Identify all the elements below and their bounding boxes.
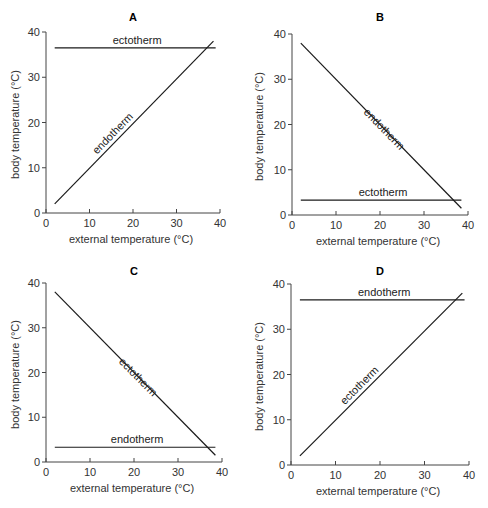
series-line-endotherm xyxy=(55,41,214,204)
y-tick-label: 30 xyxy=(28,71,40,83)
x-axis-label: external temperature (°C) xyxy=(70,482,194,494)
chart-panel-d: D010203040010203040external temperature … xyxy=(244,254,488,508)
chart-svg: B010203040010203040external temperature … xyxy=(244,0,488,254)
y-tick-label: 40 xyxy=(274,28,286,40)
x-tick-label: 10 xyxy=(83,217,95,229)
x-tick-label: 0 xyxy=(43,217,49,229)
x-tick-label: 10 xyxy=(330,219,342,231)
y-axis-label: body temperature (°C) xyxy=(253,72,265,181)
y-tick-label: 0 xyxy=(34,207,40,219)
x-tick-label: 0 xyxy=(43,466,49,478)
y-axis-label: body temperature (°C) xyxy=(9,70,21,179)
y-axis-label: body temperature (°C) xyxy=(9,320,21,429)
series-label-endotherm: endotherm xyxy=(111,433,164,445)
x-tick-label: 30 xyxy=(418,469,430,481)
series-label-endotherm: endotherm xyxy=(90,110,135,156)
y-tick-label: 0 xyxy=(280,209,286,221)
y-tick-label: 30 xyxy=(28,322,40,334)
x-axis-label: external temperature (°C) xyxy=(69,233,193,245)
x-tick-label: 40 xyxy=(216,466,228,478)
x-tick-label: 20 xyxy=(374,469,386,481)
series-line-ectotherm xyxy=(300,293,462,456)
x-tick-label: 10 xyxy=(84,466,96,478)
chart-svg: C010203040010203040external temperature … xyxy=(0,254,244,508)
series-label-endotherm: endotherm xyxy=(362,106,407,152)
panel-title: D xyxy=(376,265,384,277)
y-tick-label: 20 xyxy=(28,367,40,379)
x-tick-label: 30 xyxy=(418,219,430,231)
y-tick-label: 20 xyxy=(274,119,286,131)
x-tick-label: 40 xyxy=(462,219,474,231)
y-tick-label: 0 xyxy=(34,456,40,468)
y-tick-label: 40 xyxy=(273,278,285,290)
panel-title: A xyxy=(129,11,137,23)
y-axis-label: body temperature (°C) xyxy=(253,322,265,431)
panel-title: C xyxy=(130,265,138,277)
chart-svg: D010203040010203040external temperature … xyxy=(244,254,488,508)
x-tick-label: 30 xyxy=(170,217,182,229)
y-tick-label: 30 xyxy=(274,73,286,85)
chart-panel-b: B010203040010203040external temperature … xyxy=(244,0,488,254)
x-tick-label: 30 xyxy=(172,466,184,478)
series-label-ectotherm: ectotherm xyxy=(338,364,381,407)
panel-title: B xyxy=(376,11,384,23)
chart-svg: A010203040010203040external temperature … xyxy=(0,0,244,254)
y-tick-label: 10 xyxy=(273,414,285,426)
x-tick-label: 40 xyxy=(463,469,475,481)
y-tick-label: 20 xyxy=(273,369,285,381)
y-tick-label: 10 xyxy=(28,162,40,174)
y-tick-label: 30 xyxy=(273,323,285,335)
y-tick-label: 0 xyxy=(279,459,285,471)
y-tick-label: 20 xyxy=(28,117,40,129)
y-tick-label: 40 xyxy=(28,277,40,289)
x-axis-label: external temperature (°C) xyxy=(316,235,440,247)
chart-panel-c: C010203040010203040external temperature … xyxy=(0,254,244,508)
x-tick-label: 20 xyxy=(374,219,386,231)
x-tick-label: 20 xyxy=(127,217,139,229)
series-label-ectotherm: ectotherm xyxy=(117,355,160,398)
x-tick-label: 10 xyxy=(329,469,341,481)
series-label-ectotherm: ectotherm xyxy=(113,34,162,46)
x-axis-label: external temperature (°C) xyxy=(316,485,440,497)
x-tick-label: 0 xyxy=(288,469,294,481)
x-tick-label: 40 xyxy=(214,217,226,229)
y-tick-label: 10 xyxy=(28,411,40,423)
series-label-ectotherm: ectotherm xyxy=(359,186,408,198)
y-tick-label: 40 xyxy=(28,26,40,38)
x-tick-label: 20 xyxy=(128,466,140,478)
chart-panel-a: A010203040010203040external temperature … xyxy=(0,0,244,254)
x-tick-label: 0 xyxy=(289,219,295,231)
series-label-endotherm: endotherm xyxy=(358,286,411,298)
y-tick-label: 10 xyxy=(274,164,286,176)
